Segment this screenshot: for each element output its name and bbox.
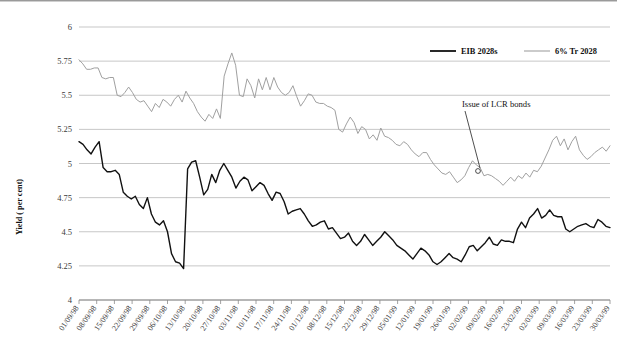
series-line-eib-2028s bbox=[79, 142, 610, 269]
legend-label-1: 6% Tr 2028 bbox=[555, 47, 597, 56]
y-axis-title: Yield ( per cent) bbox=[15, 179, 24, 235]
y-tick-label-4.25: 4.25 bbox=[57, 261, 72, 271]
y-tick-label-4.75: 4.75 bbox=[57, 193, 72, 203]
y-tick-label-4.5: 4.5 bbox=[61, 227, 72, 237]
gridlines-group bbox=[79, 27, 610, 300]
chart-svg: 44.254.54.7555.255.55.756 01/09/9808/09/… bbox=[0, 0, 617, 363]
y-tick-label-5.5: 5.5 bbox=[61, 90, 72, 100]
series-lines-group bbox=[79, 53, 610, 269]
annotations-group: Issue of LCR bonds bbox=[462, 99, 531, 173]
y-tick-label-5.75: 5.75 bbox=[57, 56, 72, 66]
annotation-leader-line-0 bbox=[465, 111, 480, 168]
x-axis-group bbox=[79, 300, 610, 304]
y-tick-label-5.25: 5.25 bbox=[57, 124, 72, 134]
x-axis-tick-labels-group: 01/09/9808/09/9815/09/9822/09/9829/09/98… bbox=[57, 304, 612, 332]
legend-group: EIB 2028s6% Tr 2028 bbox=[430, 47, 597, 56]
yield-chart: 44.254.54.7555.255.55.756 01/09/9808/09/… bbox=[0, 0, 617, 363]
legend-label-0: EIB 2028s bbox=[461, 47, 498, 56]
y-tick-label-5: 5 bbox=[68, 159, 72, 169]
y-tick-label-6: 6 bbox=[68, 22, 72, 32]
annotation-marker-0 bbox=[476, 169, 481, 174]
y-tick-label-4: 4 bbox=[68, 295, 73, 305]
series-line-tr-2028 bbox=[79, 53, 610, 185]
annotation-label-0: Issue of LCR bonds bbox=[462, 99, 531, 109]
y-axis-ticks-group: 44.254.54.7555.255.55.756 bbox=[57, 22, 73, 305]
